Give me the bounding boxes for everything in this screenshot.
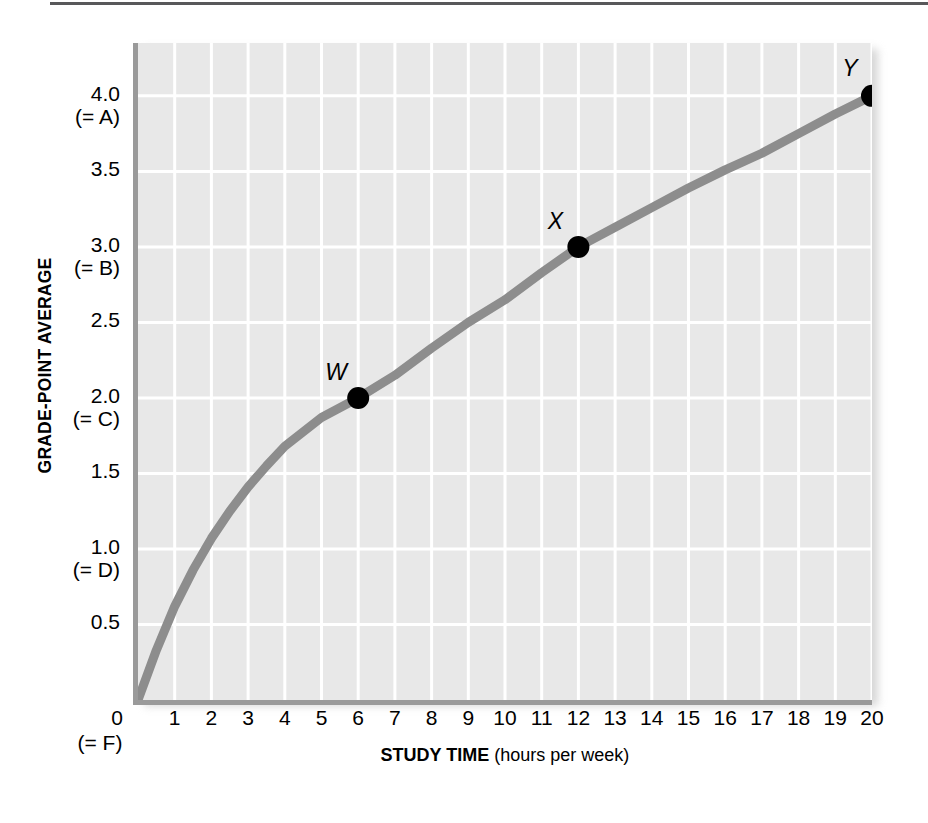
y-tick-label-4.0: 4.0(= A) — [75, 82, 120, 128]
y-tick-label-2.5: 2.5 — [91, 308, 120, 331]
plot-area — [138, 43, 872, 700]
y-axis-tick-labels: 4.0(= A)3.53.0(= B)2.52.0(= C)1.51.0(= D… — [0, 0, 128, 823]
y-tick-label-0.5: 0.5 — [91, 610, 120, 633]
y-tick-grade: (= B) — [74, 256, 120, 279]
x-tick-grade-f: (= F) — [60, 731, 140, 755]
x-axis-title-units: (hours per week) — [494, 745, 629, 765]
y-tick-label-3.5: 3.5 — [91, 157, 120, 180]
y-tick-value: 2.5 — [91, 308, 120, 331]
y-tick-label-1.5: 1.5 — [91, 459, 120, 482]
x-axis-title-bold: STUDY TIME — [381, 745, 490, 765]
y-tick-grade: (= D) — [73, 558, 120, 581]
y-tick-label-3.0: 3.0(= B) — [74, 233, 120, 279]
chart-canvas — [138, 43, 872, 700]
y-tick-value: 1.0 — [91, 535, 120, 558]
x-axis-title: STUDY TIME (hours per week) — [138, 745, 872, 766]
figure-container: 4.0(= A)3.53.0(= B)2.52.0(= C)1.51.0(= D… — [0, 0, 928, 823]
top-rule-divider — [50, 2, 928, 5]
y-tick-value: 1.5 — [91, 459, 120, 482]
y-tick-label-2.0: 2.0(= C) — [73, 384, 120, 430]
y-tick-grade: (= C) — [73, 407, 120, 430]
y-tick-label-1.0: 1.0(= D) — [73, 535, 120, 581]
point-label-y: Y — [842, 54, 857, 81]
y-tick-grade: (= A) — [75, 105, 120, 128]
y-tick-value: 4.0 — [91, 82, 120, 105]
point-label-w: W — [325, 358, 347, 385]
x-tick-label-0: 0 — [87, 706, 147, 730]
y-tick-value: 2.0 — [91, 384, 120, 407]
point-label-x: X — [548, 207, 563, 234]
x-tick-label-20: 20 — [842, 706, 902, 730]
y-tick-value: 3.0 — [91, 233, 120, 256]
data-point-marker-w[interactable] — [347, 387, 369, 409]
y-axis-title: GRADE-POINT AVERAGE — [35, 236, 56, 496]
data-point-marker-x[interactable] — [567, 236, 589, 258]
y-tick-value: 0.5 — [91, 610, 120, 633]
y-tick-value: 3.5 — [91, 157, 120, 180]
